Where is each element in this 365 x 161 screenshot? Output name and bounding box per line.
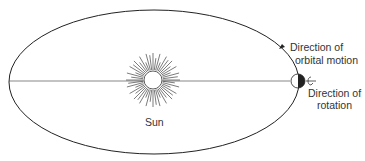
orbit-diagram-graphic [0,0,365,161]
orbit-diagram: Sun Direction of orbital motion Directio… [0,0,365,161]
sun-label: Sun [145,117,164,128]
rotation-label-line1: Direction of [308,88,361,99]
sun-icon [144,71,162,89]
orbital-motion-label-line1: Direction of [290,42,343,53]
rotation-label-line2: rotation [317,100,352,111]
orbital-motion-label-line2: orbital motion [295,55,358,66]
earth-icon [291,74,305,88]
rotation-arrow-icon [306,77,316,85]
